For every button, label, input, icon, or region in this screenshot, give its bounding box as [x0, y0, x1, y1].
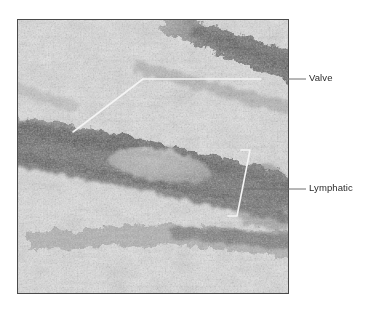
- micrograph-panel: [17, 19, 289, 294]
- lymphatic-label: Lymphatic: [309, 182, 353, 193]
- micrograph-image: [18, 20, 288, 293]
- valve-label: Valve: [309, 72, 333, 83]
- figure-root: Valve Lymphatic: [0, 0, 378, 310]
